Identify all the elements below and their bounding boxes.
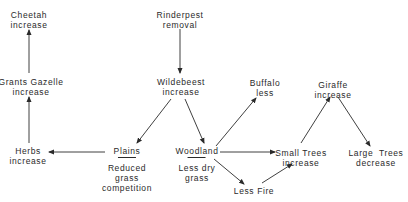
woodland-note: Less dry grass bbox=[176, 163, 219, 183]
node-large-trees: Large Trees decrease bbox=[349, 148, 404, 168]
arrow-woodland-to-buffalo bbox=[216, 98, 256, 146]
node-herbs: Herbs increase bbox=[10, 146, 47, 166]
node-giraffe: Giraffe increase bbox=[315, 80, 352, 100]
node-rinderpest: Rinderpest removal bbox=[156, 10, 203, 30]
arrow-small-trees-to-giraffe bbox=[301, 97, 330, 143]
node-grants-gazelle: Grants Gazelle increase bbox=[0, 77, 64, 97]
node-small-trees: Small Trees increase bbox=[275, 148, 326, 168]
ecosystem-diagram: Cheetah increase Grants Gazelle increase… bbox=[0, 0, 408, 202]
node-plains: Plains Reduced grass competition bbox=[102, 146, 152, 193]
node-less-fire: Less Fire bbox=[234, 186, 274, 196]
arrow-wildebeest-to-woodland bbox=[185, 99, 204, 143]
node-cheetah: Cheetah increase bbox=[11, 10, 48, 30]
plains-label: Plains bbox=[102, 146, 152, 156]
node-wildebeest: Wildebeest increase bbox=[157, 77, 205, 97]
arrow-woodland-to-less-fire bbox=[214, 159, 244, 184]
woodland-underline bbox=[188, 157, 206, 158]
arrow-giraffe-to-large-trees bbox=[338, 97, 370, 146]
arrow-wildebeest-to-plains bbox=[137, 99, 171, 143]
plains-underline bbox=[118, 157, 136, 158]
woodland-label: Woodland bbox=[176, 146, 219, 156]
node-buffalo: Buffalo less bbox=[250, 78, 281, 98]
plains-note: Reduced grass competition bbox=[102, 163, 152, 193]
node-woodland: Woodland Less dry grass bbox=[176, 146, 219, 183]
